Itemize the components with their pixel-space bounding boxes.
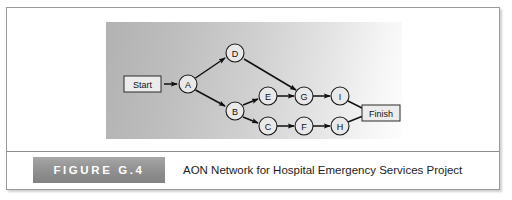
figure-number-label: FIGURE G.4: [53, 164, 144, 176]
node-label-c: C: [265, 122, 272, 132]
caption-divider: [7, 151, 499, 152]
edge-b-c: [243, 117, 258, 123]
node-label-e: E: [265, 92, 271, 102]
node-d[interactable]: D: [226, 44, 244, 62]
finish-box-label: Finish: [369, 109, 393, 119]
node-a[interactable]: A: [179, 75, 197, 93]
node-e[interactable]: E: [259, 87, 277, 105]
node-label-i: I: [339, 92, 342, 102]
node-label-h: H: [337, 122, 344, 132]
figure-caption-bar: FIGURE G.4 AON Network for Hospital Emer…: [33, 157, 499, 183]
figure-caption-block: AON Network for Hospital Emergency Servi…: [165, 157, 499, 183]
start-box-label: Start: [133, 80, 153, 90]
terminal-start[interactable]: Start: [124, 76, 161, 92]
node-label-a: A: [185, 80, 191, 90]
figure-number-block: FIGURE G.4: [33, 157, 165, 183]
node-label-f: F: [301, 122, 307, 132]
node-label-g: G: [300, 92, 307, 102]
edge-a-d: [196, 58, 226, 78]
edge-a-b: [196, 90, 226, 106]
terminal-finish[interactable]: Finish: [362, 105, 400, 121]
edge-d-g: [244, 59, 296, 90]
node-label-b: B: [232, 107, 238, 117]
node-b[interactable]: B: [226, 102, 244, 120]
figure-card: Start Finish A D B E: [6, 7, 500, 190]
node-label-d: D: [232, 49, 239, 59]
edge-b-e: [243, 99, 258, 105]
node-g[interactable]: G: [295, 87, 313, 105]
diagram-panel: Start Finish A D B E: [106, 22, 402, 139]
node-i[interactable]: I: [331, 87, 349, 105]
node-f[interactable]: F: [295, 117, 313, 135]
figure-caption-text: AON Network for Hospital Emergency Servi…: [183, 164, 462, 176]
node-c[interactable]: C: [259, 117, 277, 135]
aon-network-diagram: Start Finish A D B E: [106, 22, 402, 139]
node-h[interactable]: H: [331, 117, 349, 135]
